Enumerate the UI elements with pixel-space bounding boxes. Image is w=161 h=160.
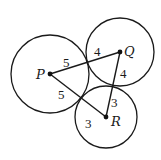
label-qr-radius-q: 4 bbox=[120, 66, 127, 81]
label-p: P bbox=[35, 67, 45, 82]
label-pq-radius-q: 4 bbox=[94, 44, 101, 59]
label-qr-radius-r: 3 bbox=[111, 95, 118, 110]
label-pr-radius-p: 5 bbox=[58, 87, 65, 102]
label-r: R bbox=[110, 114, 121, 129]
label-pr-radius-r: 3 bbox=[85, 116, 92, 131]
point-q-dot bbox=[118, 50, 123, 55]
segment-pq bbox=[50, 52, 120, 74]
label-q: Q bbox=[124, 44, 135, 59]
label-pq-radius-p: 5 bbox=[63, 55, 70, 70]
point-r-dot bbox=[104, 115, 109, 120]
tangent-circles-diagram: P Q R 5 4 5 3 4 3 bbox=[0, 0, 161, 160]
point-p-dot bbox=[48, 72, 53, 77]
